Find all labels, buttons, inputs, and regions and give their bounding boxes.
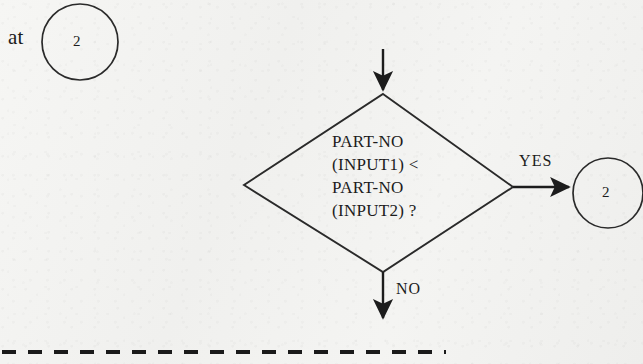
flowchart-graphics (0, 0, 643, 364)
flowchart-canvas: at 2 2 YES NO PART-NO (INPUT1) < PART-NO… (0, 0, 643, 364)
leading-text: at (8, 27, 24, 48)
connector-left-label: 2 (73, 34, 81, 49)
decision-line-4: (INPUT2) ? (332, 199, 419, 222)
connector-right-label: 2 (602, 185, 610, 200)
no-branch-label: NO (396, 281, 421, 297)
yes-branch-label: YES (519, 153, 553, 169)
decision-text-block: PART-NO (INPUT1) < PART-NO (INPUT2) ? (332, 130, 419, 222)
decision-line-3: PART-NO (332, 176, 419, 199)
decision-line-1: PART-NO (332, 130, 419, 153)
decision-line-2: (INPUT1) < (332, 153, 419, 176)
